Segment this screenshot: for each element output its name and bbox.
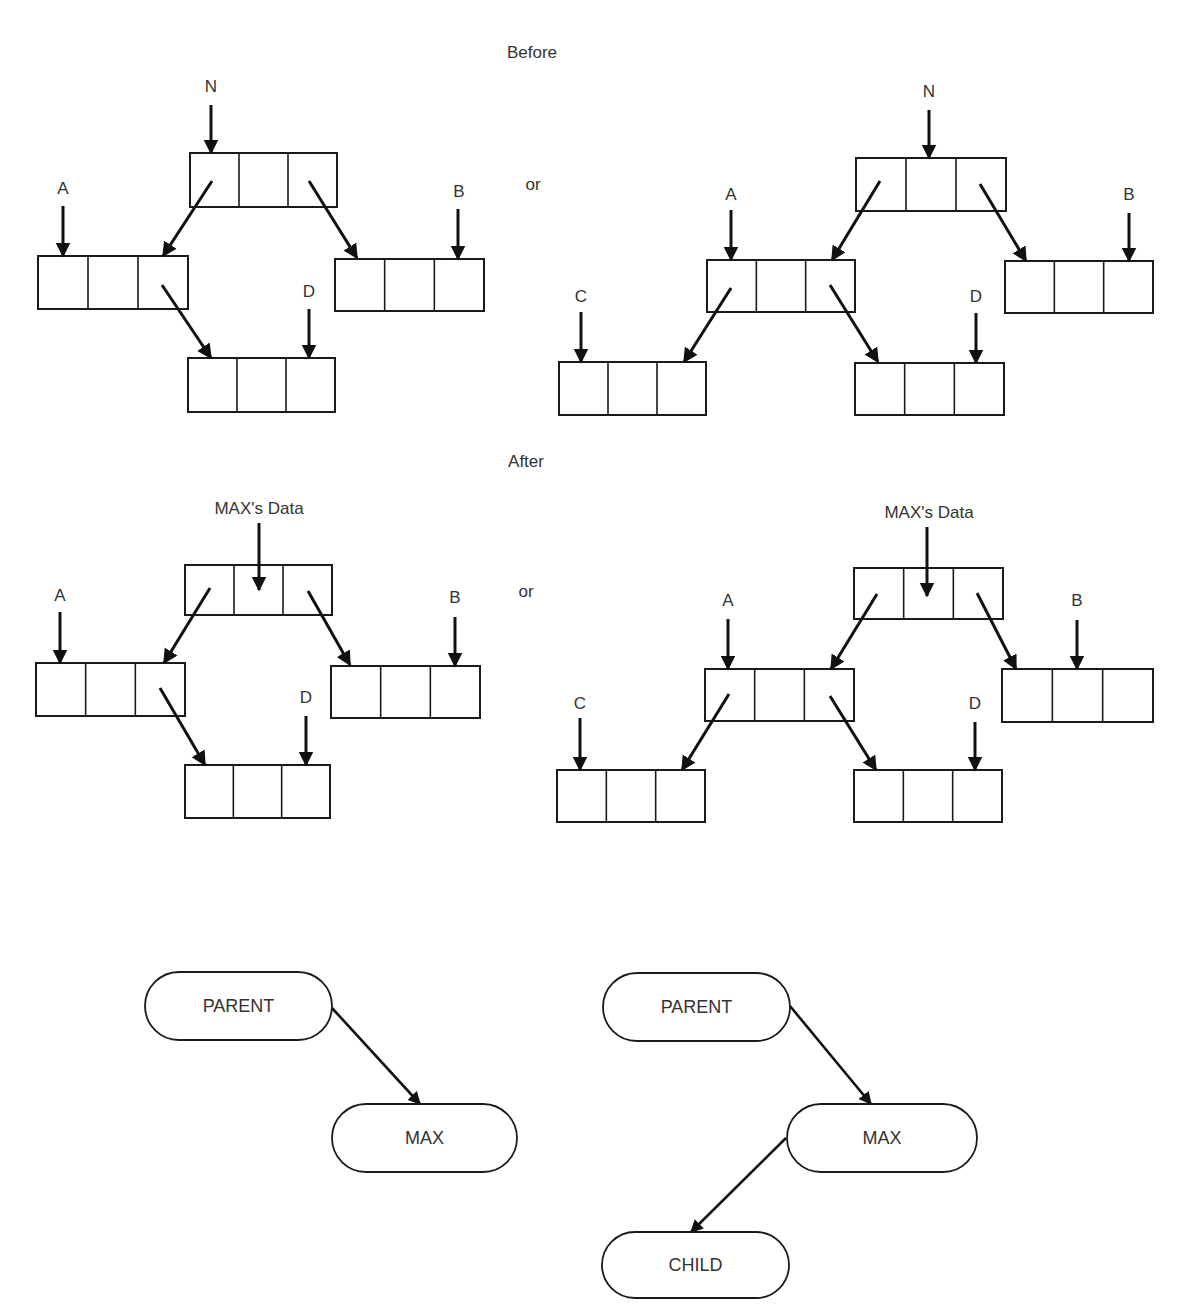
after-title: After [508, 452, 544, 471]
node-box-outline [190, 153, 337, 207]
node-box-b [331, 666, 480, 718]
tree-node-label: CHILD [668, 1255, 722, 1275]
pointer-d: D [969, 694, 981, 770]
pointer-label: A [54, 586, 66, 605]
pointer-d: D [970, 287, 982, 363]
tree-node-parent: PARENT [603, 973, 790, 1041]
pointer-label: N [205, 77, 217, 96]
pointer-label: B [453, 182, 464, 201]
linked-tree-deletion-figure: Before or NABD NABCD After or MAX's Data… [0, 0, 1189, 1309]
section-after: After or MAX's DataABD MAX's DataABCD [36, 452, 1153, 822]
node-box-outline [36, 663, 185, 716]
node-box-c [557, 770, 705, 822]
pointer-a: A [722, 591, 734, 669]
node-box-outline [331, 666, 480, 718]
node-box-d [188, 358, 335, 412]
pointer-a: A [54, 586, 66, 663]
after-right-diagram: MAX's DataABCD [557, 503, 1153, 822]
pointer-label: D [300, 688, 312, 707]
node-box-d [854, 770, 1002, 822]
pointer-b: B [449, 588, 460, 666]
tree-edge-arrow-icon [790, 1006, 871, 1104]
pointer-label: D [303, 282, 315, 301]
pointer-label: D [969, 694, 981, 713]
tree-node-label: PARENT [661, 997, 733, 1017]
node-box-outline [855, 363, 1004, 415]
node-box-a [36, 663, 185, 716]
pointer-label: A [725, 185, 737, 204]
section-before: Before or NABD NABCD [38, 43, 1153, 415]
node-box-a [38, 256, 188, 309]
before-right-diagram: NABCD [559, 82, 1153, 415]
node-box-a [707, 260, 855, 312]
pointer-n: N [923, 82, 935, 158]
before-or-separator: or [525, 175, 540, 194]
pointer-c: C [574, 694, 586, 770]
pointer-b: B [1123, 185, 1134, 261]
tree-edge-arrow-icon [332, 1008, 420, 1104]
tree-node-label: MAX [862, 1128, 901, 1148]
after-left-diagram: MAX's DataABD [36, 499, 480, 818]
node-box-outline [707, 260, 855, 312]
node-box-b [1005, 261, 1153, 313]
pointer-label: A [722, 591, 734, 610]
before-left-diagram: NABD [38, 77, 484, 412]
tree-node-max: MAX [332, 1104, 517, 1172]
pointer-c: C [575, 287, 587, 362]
after-or-separator: or [518, 582, 533, 601]
tree-node-label: PARENT [203, 996, 275, 1016]
pointer-d: D [303, 282, 315, 358]
tree-node-parent: PARENT [145, 972, 332, 1040]
node-box-outline [854, 770, 1002, 822]
pointer-label: C [574, 694, 586, 713]
node-box-outline [185, 765, 330, 818]
before-title: Before [507, 43, 557, 62]
pointer-label: D [970, 287, 982, 306]
tree-node-max: MAX [787, 1104, 977, 1172]
pointer-n: N [205, 77, 217, 153]
pointer-label: A [57, 179, 69, 198]
node-box-outline [188, 358, 335, 412]
node-box-d [855, 363, 1004, 415]
node-box-outline [1002, 669, 1153, 722]
node-box-outline [335, 259, 484, 311]
tree-diagram-right: PARENTMAXCHILD [602, 973, 977, 1298]
pointer-d: D [300, 688, 312, 765]
node-box-d [185, 765, 330, 818]
node-box-c [559, 362, 706, 415]
node-box-n [190, 153, 337, 207]
pointer-a: A [57, 179, 69, 256]
child-pointer-arrow-icon [163, 181, 212, 256]
node-box-outline [559, 362, 706, 415]
tree-node-label: MAX [405, 1128, 444, 1148]
pointer-a: A [725, 185, 737, 260]
pointer-label: MAX's Data [214, 499, 304, 518]
tree-edge-arrow-icon [691, 1138, 786, 1232]
pointer-label: N [923, 82, 935, 101]
node-box-outline [557, 770, 705, 822]
node-box-b [335, 259, 484, 311]
pointer-label: MAX's Data [884, 503, 974, 522]
tree-node-child: CHILD [602, 1232, 789, 1298]
pointer-b: B [1071, 591, 1082, 669]
pointer-label: B [1123, 185, 1134, 204]
node-box-outline [38, 256, 188, 309]
node-box-b [1002, 669, 1153, 722]
pointer-b: B [453, 182, 464, 259]
pointer-label: B [1071, 591, 1082, 610]
tree-diagram-left: PARENTMAX [145, 972, 517, 1172]
pointer-label: C [575, 287, 587, 306]
node-box-outline [1005, 261, 1153, 313]
pointer-label: B [449, 588, 460, 607]
